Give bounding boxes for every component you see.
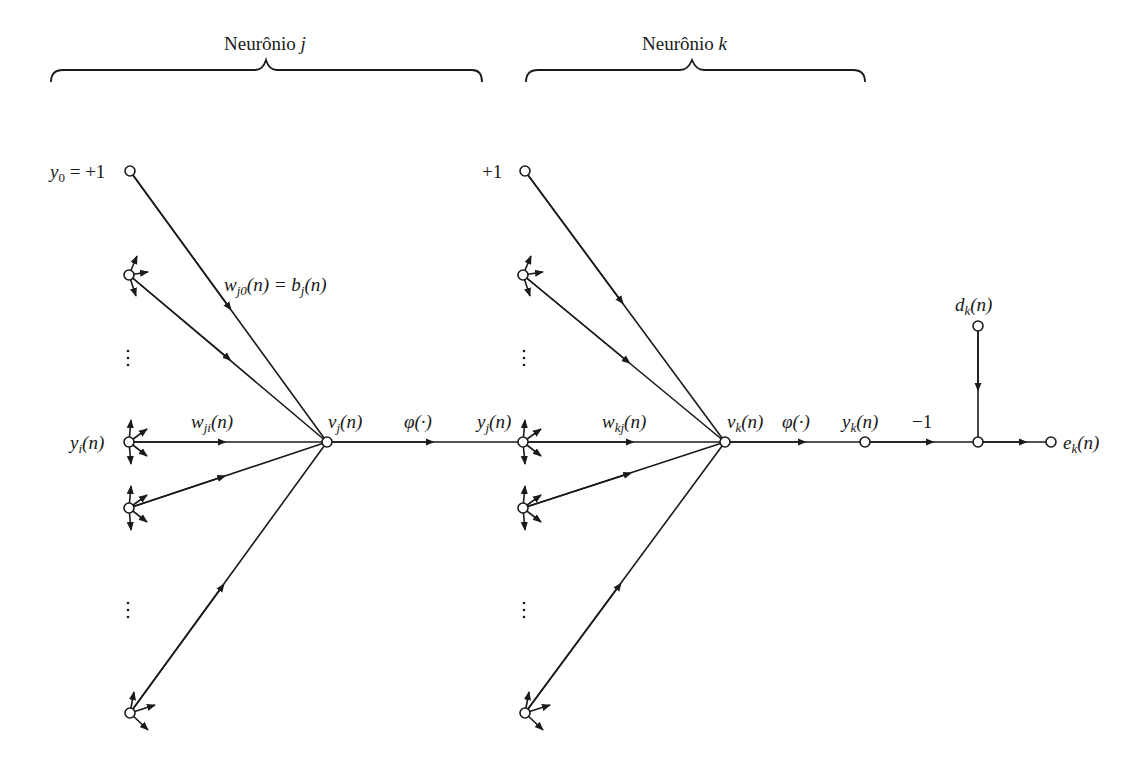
node-yj <box>518 437 528 447</box>
node-yi <box>124 437 134 447</box>
label-vk: vk(n) <box>727 411 763 435</box>
label-minus-one: −1 <box>912 411 932 432</box>
label-phi-j: φ(·) <box>404 411 432 433</box>
node-dk <box>973 321 983 331</box>
node-vj <box>322 437 332 447</box>
node-yk <box>860 437 870 447</box>
brace-neuron-k <box>526 60 865 82</box>
label-yk: yk(n) <box>840 411 878 435</box>
node-sum <box>973 437 983 447</box>
node-input-2-k <box>518 270 528 280</box>
label-y0: y0 = +1 <box>48 161 105 185</box>
label-yi: yi(n) <box>68 432 104 456</box>
node-input-last-j <box>125 708 135 718</box>
node-input-4-k <box>518 503 528 513</box>
label-plus-one: +1 <box>482 161 502 182</box>
neuron-j-title: Neurônio j <box>224 33 306 54</box>
node-input-4-j <box>124 503 134 513</box>
label-ek: ek(n) <box>1063 432 1099 456</box>
signal-flow-diagram: Neurônio j Neurônio k <box>0 0 1147 784</box>
node-input-2-j <box>124 270 134 280</box>
label-wji: wji(n) <box>191 411 233 435</box>
node-bias-k <box>520 166 530 176</box>
edges-neuron-k <box>523 171 1051 713</box>
node-ek <box>1046 437 1056 447</box>
neuron-k-title: Neurônio k <box>642 33 728 54</box>
node-vk <box>720 437 730 447</box>
label-vj: vj(n) <box>328 411 362 435</box>
node-y0 <box>125 166 135 176</box>
label-yj: yj(n) <box>475 411 511 435</box>
brace-neuron-j <box>51 60 482 82</box>
ellipsis-markers <box>127 350 526 619</box>
label-wj0: wj0(n) = bj(n) <box>224 274 327 298</box>
node-input-last-k <box>520 708 530 718</box>
label-dk: dk(n) <box>955 294 992 318</box>
label-phi-k: φ(·) <box>782 411 810 433</box>
label-wkj: wkj(n) <box>602 411 646 435</box>
